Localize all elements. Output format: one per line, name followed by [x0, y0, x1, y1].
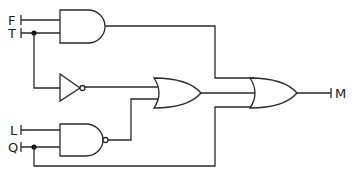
- not-gate-bubble: [80, 86, 85, 91]
- wire-and1-to-or2: [105, 26, 254, 78]
- input-t-label: T: [7, 26, 16, 41]
- wire-nand1-to-or1: [108, 99, 158, 140]
- or-gate-2: [250, 78, 297, 108]
- input-q-label: Q: [8, 140, 18, 155]
- wire-t-to-not1: [34, 33, 60, 88]
- output-m-label: M: [335, 86, 346, 101]
- not-gate: [60, 74, 80, 101]
- output-m: M: [331, 86, 346, 101]
- and-gate-1: [60, 10, 105, 43]
- logic-circuit-diagram: F T L Q M: [0, 0, 355, 178]
- nand-gate-bubble: [103, 138, 108, 143]
- input-l: L: [10, 123, 60, 138]
- input-t: T: [7, 26, 60, 88]
- input-l-label: L: [10, 123, 18, 138]
- nand-gate: [60, 124, 103, 156]
- or-gate-1: [154, 78, 201, 108]
